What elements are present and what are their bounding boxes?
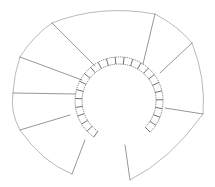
outer-wall-edge bbox=[12, 11, 203, 180]
column-block-divider bbox=[98, 62, 101, 68]
column-block-divider bbox=[155, 107, 162, 108]
column-block-divider bbox=[150, 121, 156, 125]
column-block-divider bbox=[91, 67, 96, 72]
stair-tread-line bbox=[52, 23, 95, 66]
column-block-divider bbox=[80, 81, 86, 84]
column-block-divider bbox=[144, 68, 149, 73]
column-block-divider bbox=[87, 126, 92, 131]
column-block-divider bbox=[153, 115, 160, 118]
column-ring-edge bbox=[75, 57, 163, 137]
column-block-divider bbox=[94, 131, 98, 137]
stair-end-edge bbox=[125, 145, 130, 180]
column-block-divider bbox=[138, 63, 142, 69]
spiral-staircase-diagram bbox=[0, 0, 215, 187]
column-block-divider bbox=[131, 59, 133, 66]
stair-tread-line bbox=[20, 57, 82, 80]
column-block-divider bbox=[77, 90, 84, 92]
column-block-divider bbox=[155, 91, 162, 93]
column-block-divider bbox=[115, 57, 116, 64]
stair-tread-line bbox=[13, 93, 75, 94]
column-block-divider bbox=[123, 57, 124, 64]
column-block-divider bbox=[78, 114, 85, 116]
column-block-divider bbox=[82, 120, 88, 124]
column-block-divider bbox=[145, 127, 150, 132]
column-block-divider bbox=[85, 74, 91, 78]
stair-tread-line bbox=[160, 43, 192, 73]
column-block-divider bbox=[149, 75, 155, 79]
column-block-divider bbox=[153, 82, 159, 85]
column-block-divider bbox=[106, 59, 108, 66]
central-column-blocks bbox=[75, 57, 163, 137]
stair-tread-line bbox=[165, 108, 203, 114]
column-ring-edge bbox=[82, 64, 156, 131]
stair-tread-line bbox=[143, 14, 155, 64]
stair-start-edge bbox=[72, 140, 85, 174]
column-block-divider bbox=[76, 106, 83, 107]
stair-tread-line bbox=[20, 115, 70, 130]
